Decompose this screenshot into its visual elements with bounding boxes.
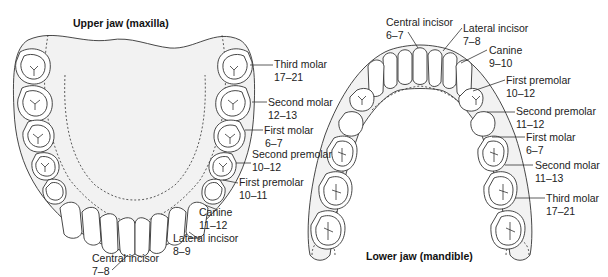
tooth-name: Second molar — [535, 159, 600, 172]
upper-label-second-premolar: Second premolar 10–12 — [252, 148, 332, 173]
eruption-age: 11–12 — [516, 118, 596, 131]
tooth-name: Central incisor — [92, 252, 159, 265]
upper-label-lateral-incisor: Lateral incisor 8–9 — [173, 232, 238, 257]
tooth-name: First premolar — [506, 74, 571, 87]
eruption-age: 6–7 — [526, 144, 576, 157]
upper-label-central-incisor: Central incisor 7–8 — [92, 252, 159, 277]
tooth-name: Second premolar — [252, 148, 332, 161]
tooth-name: Canine — [489, 44, 522, 57]
tooth-name: Lateral incisor — [463, 22, 528, 35]
upper-label-canine: Canine 11–12 — [199, 206, 232, 231]
tooth-name: Third molar — [546, 192, 599, 205]
lower-label-second-premolar: Second premolar 11–12 — [516, 105, 596, 130]
eruption-age: 9–10 — [489, 57, 522, 70]
tooth-name: Second premolar — [516, 105, 596, 118]
lower-label-canine: Canine 9–10 — [489, 44, 522, 69]
lower-jaw-title: Lower jaw (mandible) — [366, 250, 473, 262]
eruption-age: 10–12 — [506, 87, 571, 100]
upper-label-third-molar: Third molar 17–21 — [274, 58, 327, 83]
eruption-age: 7–8 — [92, 265, 159, 277]
eruption-age: 17–21 — [274, 71, 327, 84]
tooth-name: Third molar — [274, 58, 327, 71]
lower-label-first-premolar: First premolar 10–12 — [506, 74, 571, 99]
eruption-age: 11–13 — [535, 172, 600, 185]
upper-label-second-molar: Second molar 12–13 — [268, 96, 333, 121]
tooth-name: Canine — [199, 206, 232, 219]
tooth-name: Lateral incisor — [173, 232, 238, 245]
lower-label-second-molar: Second molar 11–13 — [535, 159, 600, 184]
upper-label-first-premolar: First premolar 10–11 — [239, 176, 304, 201]
eruption-age: 17–21 — [546, 205, 599, 218]
eruption-age: 6–7 — [386, 29, 453, 42]
tooth-name: Second molar — [268, 96, 333, 109]
upper-jaw-title: Upper jaw (maxilla) — [73, 17, 169, 29]
tooth-name: First premolar — [239, 176, 304, 189]
tooth-name: First molar — [526, 131, 576, 144]
eruption-age: 10–12 — [252, 161, 332, 174]
eruption-age: 10–11 — [239, 189, 304, 202]
tooth-name: Central incisor — [386, 16, 453, 29]
eruption-age: 12–13 — [268, 109, 333, 122]
eruption-age: 11–12 — [199, 219, 232, 232]
tooth-name: First molar — [264, 124, 314, 137]
lower-label-third-molar: Third molar 17–21 — [546, 192, 599, 217]
lower-label-central-incisor: Central incisor 6–7 — [386, 16, 453, 41]
upper-label-first-molar: First molar 6–7 — [264, 124, 314, 149]
lower-label-first-molar: First molar 6–7 — [526, 131, 576, 156]
eruption-age: 8–9 — [173, 245, 238, 258]
